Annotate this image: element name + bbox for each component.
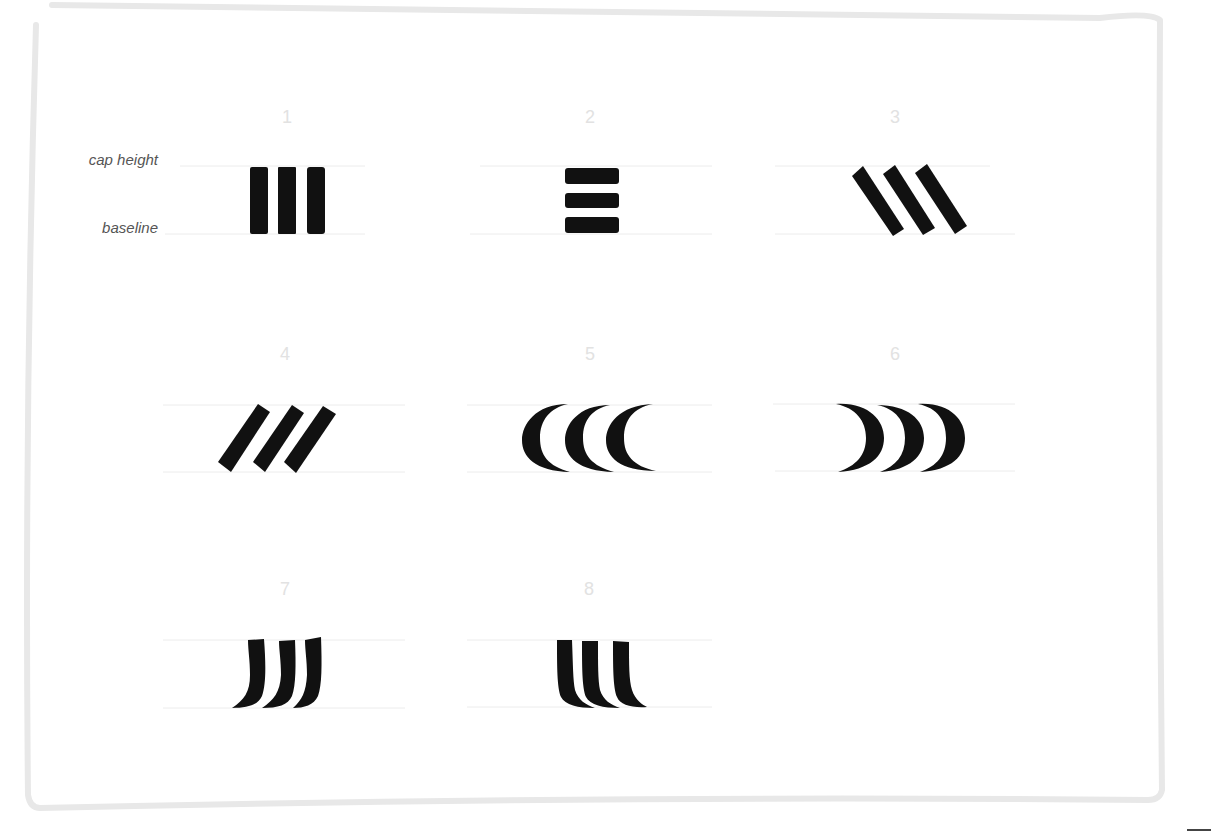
figure-3-backslash-bars	[852, 164, 967, 236]
figures-canvas	[0, 0, 1211, 837]
figure-4-slash-bars	[218, 404, 336, 473]
stroke-diagram: cap height baseline 1 2 3 4 5 6 7 8	[0, 0, 1211, 837]
guide-lines	[163, 166, 1015, 708]
figure-5-left-crescents	[522, 404, 656, 472]
figure-7-left-tail-strokes	[232, 637, 322, 708]
figure-6-right-crescents	[836, 404, 965, 472]
figure-8-right-tail-strokes	[557, 640, 647, 708]
figure-1-vertical-bars	[250, 167, 325, 234]
figure-2-horizontal-bars	[565, 168, 619, 233]
corner-mark	[1187, 829, 1211, 831]
